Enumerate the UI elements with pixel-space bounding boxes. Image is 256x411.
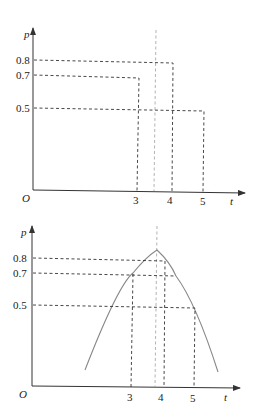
bottom-guide-0.8: [33, 258, 165, 387]
figure: p 0.8 0.7 0.5 O 3 4 5 t p 0.8 0.7 0.5 O …: [0, 0, 256, 411]
top-y-tick: 0.7: [16, 69, 30, 81]
bottom-y-tick: 0.5: [13, 299, 27, 311]
top-x-tick: 4: [167, 194, 173, 206]
bottom-x-tick: 5: [190, 392, 196, 404]
top-guide-0.7: [34, 75, 139, 191]
bottom-origin-label: O: [19, 388, 27, 400]
bottom-y-tick: 0.8: [13, 252, 27, 264]
top-y-tick: 0.8: [16, 54, 30, 66]
bottom-guide-t3: [131, 274, 133, 387]
top-guide-0.5: [34, 108, 204, 192]
top-origin-label: O: [22, 192, 30, 204]
top-x-axis: [33, 190, 245, 193]
top-x-tick: 3: [133, 194, 139, 206]
bottom-curve: [85, 250, 218, 372]
top-chart: p 0.8 0.7 0.5 O 3 4 5 t: [16, 28, 245, 207]
bottom-y-label: p: [20, 226, 27, 238]
top-y-tick: 0.5: [16, 102, 30, 114]
top-x-tick: 5: [200, 195, 206, 207]
top-guide-0.8: [34, 60, 173, 191]
bottom-guide-0.5: [33, 305, 195, 388]
bottom-guide-0.7-ext: [33, 273, 176, 276]
bottom-x-tick: 3: [127, 391, 133, 403]
bottom-y-tick: 0.7: [13, 267, 27, 279]
bottom-chart: p 0.8 0.7 0.5 O 3 4 5 t: [13, 226, 240, 404]
bottom-x-axis: [32, 386, 240, 388]
bottom-x-label: t: [224, 391, 228, 403]
top-y-label: p: [23, 28, 30, 40]
bottom-x-tick: 4: [158, 391, 164, 403]
top-x-label: t: [230, 195, 234, 207]
